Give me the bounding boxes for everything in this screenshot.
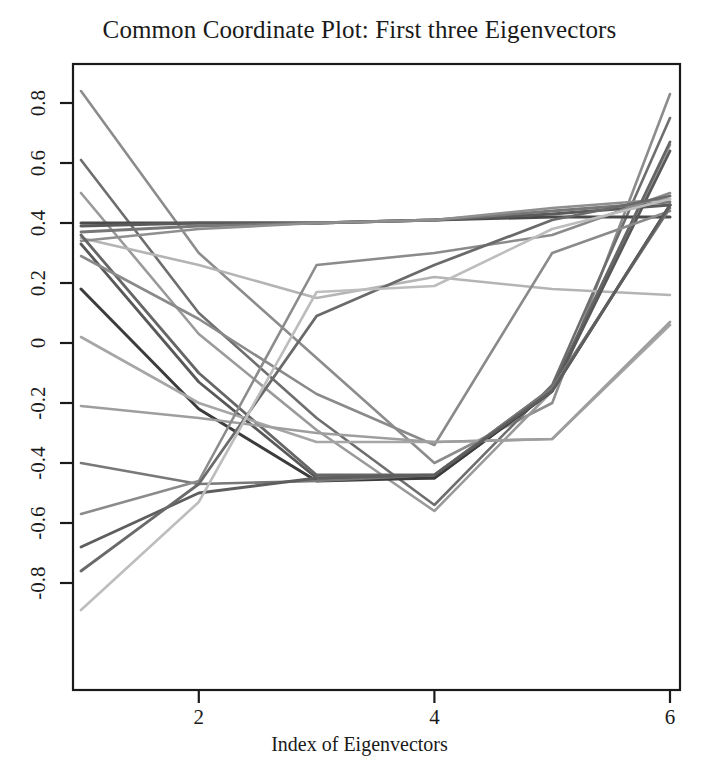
series-layer	[81, 91, 670, 610]
y-tick-label: -0.8	[26, 566, 51, 599]
y-tick-label: -0.2	[26, 386, 51, 419]
y-tick-label: 0.4	[26, 210, 51, 236]
series-line	[81, 142, 670, 475]
y-tick-label: 0.6	[26, 150, 51, 176]
plot-frame	[73, 64, 680, 690]
series-line	[81, 205, 670, 547]
x-tick-label: 6	[665, 705, 676, 730]
y-tick-label: 0.2	[26, 270, 51, 296]
series-line	[81, 91, 670, 463]
x-tick-label: 2	[194, 705, 205, 730]
tick-marks	[60, 103, 670, 703]
y-tick-label: -0.6	[26, 506, 51, 539]
plot-canvas	[0, 0, 719, 776]
series-line	[81, 199, 670, 610]
series-line	[81, 118, 670, 505]
series-line	[81, 151, 670, 478]
y-tick-label: 0.8	[26, 90, 51, 116]
y-tick-label: -0.4	[26, 446, 51, 479]
y-tick-label: 0	[26, 338, 51, 349]
series-line	[81, 196, 670, 571]
chart-page: Common Coordinate Plot: First three Eige…	[0, 0, 719, 776]
x-tick-label: 4	[429, 705, 440, 730]
x-axis-label: Index of Eigenvectors	[0, 733, 719, 756]
